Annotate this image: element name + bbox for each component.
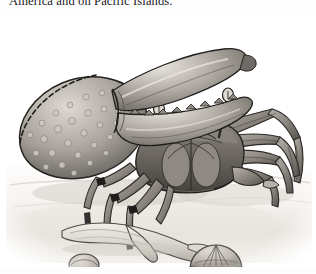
- body-text-line: America and on Pacific Islands.: [9, 0, 309, 8]
- book-page: America and on Pacific Islands.: [0, 0, 316, 274]
- figure-illustration: [0, 17, 316, 267]
